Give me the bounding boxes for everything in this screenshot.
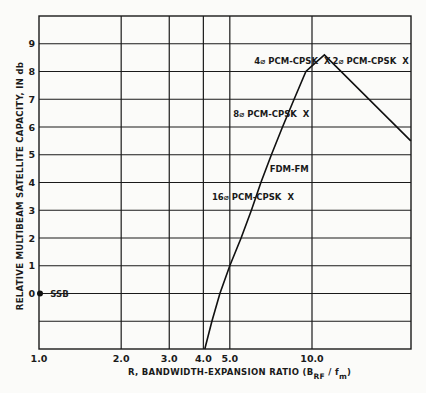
y-tick-label: 9 (28, 38, 35, 49)
y-axis-label: RELATIVE MULTIBEAM SATELLITE CAPACITY, I… (15, 62, 25, 310)
annotation-label: 8⌀ PCM-CPSK X (233, 109, 310, 119)
y-tick-label: 2 (28, 233, 35, 244)
y-tick-label: 8 (28, 66, 35, 77)
y-tick-label: 7 (28, 94, 35, 105)
y-tick-label: 3 (28, 205, 35, 216)
annotation-label: 2⌀ PCM-CPSK X (333, 56, 410, 66)
y-tick-labels: 0123456789 (28, 38, 35, 299)
y-tick-label: 0 (28, 288, 35, 299)
x-tick-label: 4.0 (195, 353, 212, 364)
x-tick-label: 2.0 (113, 353, 130, 364)
annotation-label: 16⌀ PCM-CPSK X (212, 192, 294, 202)
y-tick-label: 5 (28, 149, 35, 160)
annotation-label: SSB (50, 289, 68, 299)
x-axis-label-mid: / f (325, 367, 339, 377)
y-tick-label: 1 (28, 260, 35, 271)
bandwidth-capacity-chart: 1.02.03.04.05.010.0 0123456789 SSB16⌀ PC… (0, 0, 426, 393)
annotation-label: 4⌀ PCM-CPSK X (254, 56, 331, 66)
x-tick-label: 10.0 (300, 353, 324, 364)
ssb-point-marker (37, 291, 43, 297)
y-tick-label: 6 (28, 122, 35, 133)
x-axis-label-end: ) (347, 367, 351, 377)
y-tick-label: 4 (28, 177, 35, 188)
annotation-label: FDM-FM (270, 164, 309, 174)
x-axis-label-sub1: RF (314, 372, 326, 381)
x-tick-labels: 1.02.03.04.05.010.0 (31, 353, 325, 364)
x-tick-label: 3.0 (161, 353, 178, 364)
x-axis-label: R, BANDWIDTH-EXPANSION RATIO (BRF / fm) (128, 367, 351, 381)
x-axis-label-main: R, BANDWIDTH-EXPANSION RATIO (B (128, 367, 314, 377)
x-axis-label-sub2: m (339, 372, 347, 381)
x-tick-label: 5.0 (221, 353, 238, 364)
x-tick-label: 1.0 (31, 353, 48, 364)
